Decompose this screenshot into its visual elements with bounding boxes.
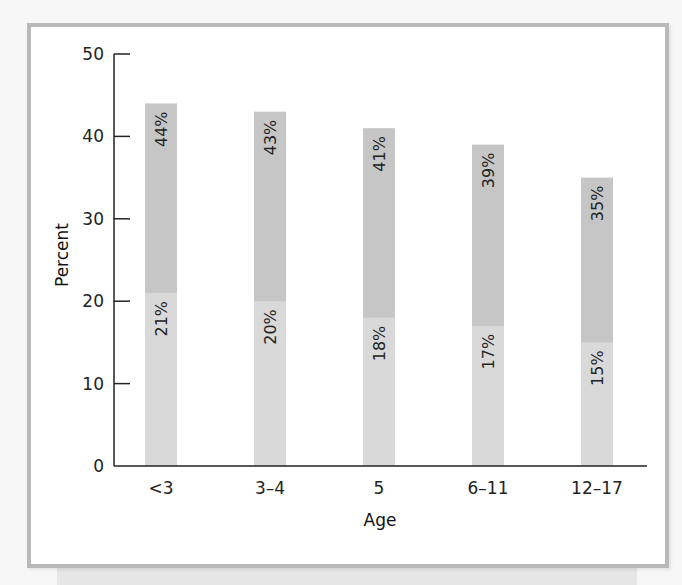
y-tick-label: 50	[82, 44, 104, 64]
bar-value-label-upper: 43%	[261, 120, 280, 156]
x-tick-label: 6–11	[468, 478, 509, 498]
bar-value-label-lower: 21%	[152, 301, 171, 337]
bar-value-label-upper: 41%	[370, 136, 389, 172]
bar-value-label-lower: 20%	[261, 309, 280, 345]
y-tick-label: 0	[93, 456, 104, 476]
bar-value-label-lower: 15%	[588, 350, 607, 386]
y-tick-label: 40	[82, 126, 104, 146]
bar-value-label-upper: 44%	[152, 111, 171, 147]
y-axis-title: Percent	[52, 223, 72, 287]
x-tick-label: 12–17	[571, 478, 623, 498]
x-tick-label: <3	[148, 478, 173, 498]
bar-value-label-upper: 35%	[588, 186, 607, 222]
y-tick-label: 30	[82, 209, 104, 229]
bar-value-label-upper: 39%	[479, 153, 498, 189]
bar-value-label-lower: 18%	[370, 326, 389, 362]
x-tick-label: 3–4	[255, 478, 285, 498]
bar-chart: 44%21%43%20%41%18%39%17%35%15% <33–456–1…	[0, 0, 682, 585]
bar-value-label-lower: 17%	[479, 334, 498, 370]
x-tick-label: 5	[374, 478, 385, 498]
bars-group: 44%21%43%20%41%18%39%17%35%15%	[145, 103, 613, 466]
x-axis-title: Age	[364, 510, 397, 530]
y-tick-label: 10	[82, 374, 104, 394]
y-tick-label: 20	[82, 291, 104, 311]
